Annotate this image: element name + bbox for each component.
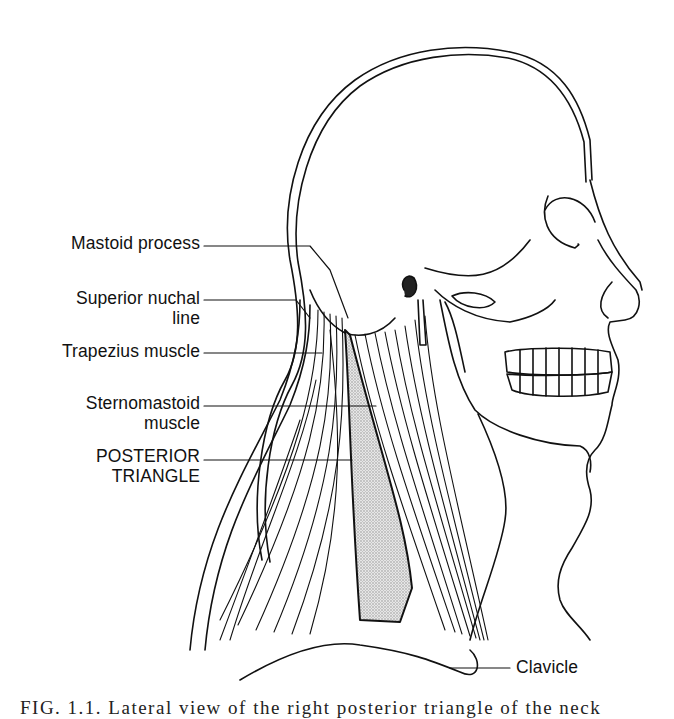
leader-mastoid xyxy=(204,246,348,318)
trapezius-fibers xyxy=(220,310,343,640)
figure-caption: FIG. 1.1. Lateral view of the right post… xyxy=(20,697,674,719)
label-posterior-triangle: POSTERIOR TRIANGLE xyxy=(40,446,200,486)
zygoma-oval xyxy=(452,293,495,308)
label-text-line1: POSTERIOR xyxy=(40,446,200,466)
nasal-bone xyxy=(590,180,642,290)
label-text: Trapezius muscle xyxy=(62,341,200,361)
label-text: Mastoid process xyxy=(71,233,200,253)
label-trapezius-muscle: Trapezius muscle xyxy=(30,341,200,361)
mandible xyxy=(440,300,591,472)
skull-outer-outline xyxy=(257,48,592,560)
nose-inner xyxy=(601,282,612,318)
label-text: Clavicle xyxy=(516,657,578,677)
label-text-line2: line xyxy=(40,308,200,328)
label-clavicle: Clavicle xyxy=(516,657,636,677)
leader-superior-nuchal xyxy=(204,300,310,318)
lower-teeth xyxy=(507,372,612,396)
clavicle-bone xyxy=(240,644,477,680)
label-text-line1: Sternomastoid xyxy=(40,393,200,413)
posterior-triangle-region xyxy=(345,330,412,622)
skull-inner-outline xyxy=(265,55,586,562)
ear-canal xyxy=(403,276,417,297)
face-profile xyxy=(558,240,639,640)
upper-teeth xyxy=(505,348,612,375)
occipital-curve xyxy=(310,290,395,335)
zygomatic-arch xyxy=(425,240,530,276)
label-text-line2: TRIANGLE xyxy=(40,466,200,486)
label-text-line1: Superior nuchal xyxy=(40,288,200,308)
orbit-rim xyxy=(545,198,595,222)
label-sternomastoid-muscle: Sternomastoid muscle xyxy=(40,393,200,433)
label-text-line2: muscle xyxy=(40,413,200,433)
label-superior-nuchal-line: Superior nuchal line xyxy=(40,288,200,328)
styloid-process xyxy=(418,300,426,345)
label-mastoid-process: Mastoid process xyxy=(40,233,200,253)
